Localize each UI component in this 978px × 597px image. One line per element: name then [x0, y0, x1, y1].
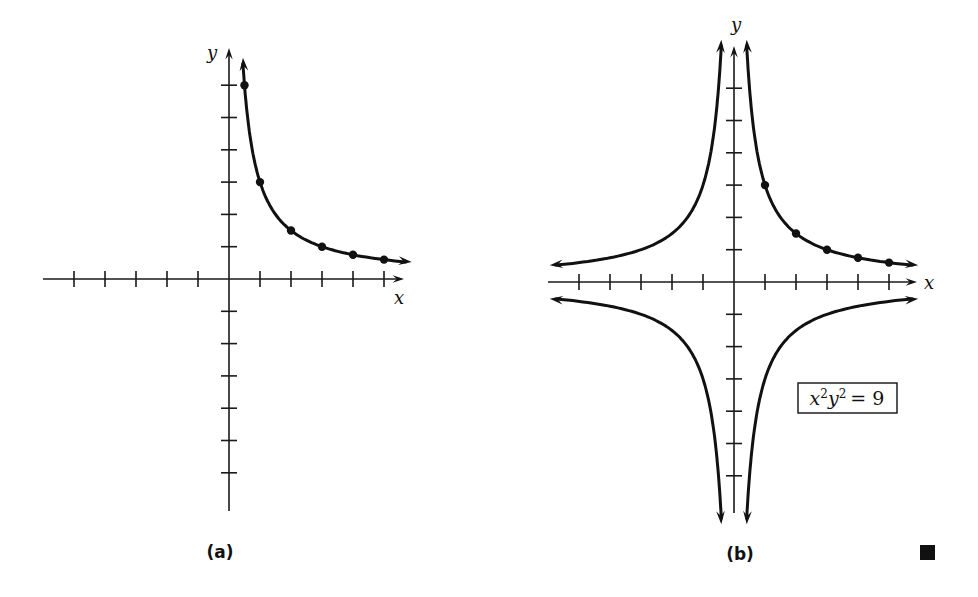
- panel-a-curves: [240, 58, 412, 265]
- panel-b-axes: [548, 46, 917, 513]
- data-point: [761, 181, 769, 189]
- panel-a-y-axis-label: y: [206, 42, 218, 63]
- data-point: [349, 251, 357, 259]
- equation-box: x2y2= 9: [798, 383, 897, 413]
- end-of-example-mark: [920, 545, 935, 560]
- hyperbola-branch-q3: [556, 299, 722, 518]
- data-point: [240, 81, 248, 89]
- panel-b-data-points: [761, 181, 893, 267]
- data-point: [823, 246, 831, 254]
- data-point: [256, 178, 264, 186]
- panel-a-axes: [43, 48, 404, 511]
- panel-a-caption: (a): [206, 542, 233, 562]
- data-point: [287, 226, 295, 234]
- data-point: [792, 229, 800, 237]
- hyperbola-branch-q1: [243, 64, 406, 262]
- panel-b-y-axis-label: y: [730, 14, 742, 35]
- panel-b-x-axis-label: x: [924, 272, 934, 293]
- hyperbola-branch-q2: [556, 46, 722, 265]
- data-point: [380, 255, 388, 263]
- data-point: [318, 243, 326, 251]
- panel-b-graph: y x x2y2= 9 (b): [548, 14, 934, 564]
- panel-a-data-points: [240, 81, 388, 264]
- data-point: [854, 254, 862, 262]
- hyperbola-branch-q1: [747, 46, 913, 265]
- panel-a-x-axis-label: x: [394, 287, 404, 308]
- panel-a-graph: y x (a): [43, 42, 412, 562]
- panel-b-caption: (b): [726, 544, 754, 564]
- figure: y x (a) y x x2y2= 9 (b): [0, 0, 978, 597]
- data-point: [885, 258, 893, 266]
